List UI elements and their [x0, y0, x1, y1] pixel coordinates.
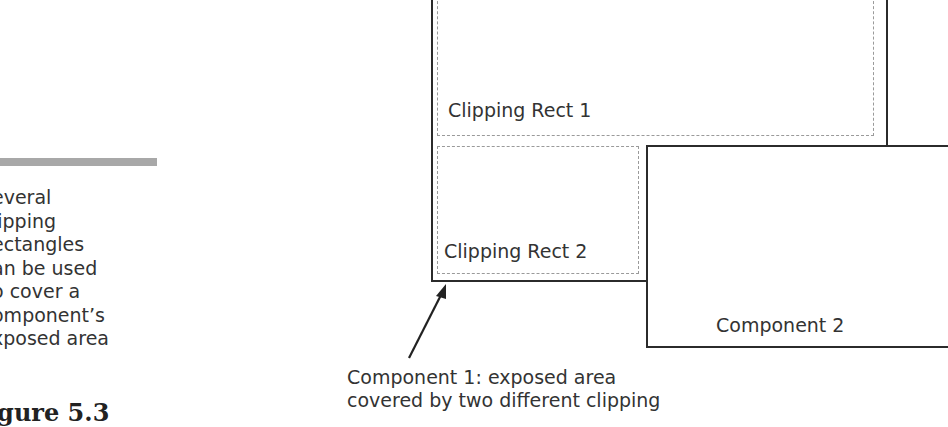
sidebar-line: lipping — [0, 210, 162, 234]
sidebar-line: ectangles — [0, 233, 162, 257]
caption-line: Component 1: exposed area — [347, 366, 660, 389]
caption-line: covered by two different clipping — [347, 389, 660, 412]
sidebar-caption: everal lipping ectangles an be used o co… — [0, 186, 162, 351]
clipping-rect-1-label: Clipping Rect 1 — [448, 99, 591, 121]
sidebar-line: an be used — [0, 257, 162, 281]
component-2-label: Component 2 — [716, 314, 844, 336]
diagram-caption: Component 1: exposed area covered by two… — [347, 366, 660, 412]
sidebar-line: omponent’s — [0, 304, 162, 328]
sidebar-line: o cover a — [0, 280, 162, 304]
sidebar-line: xposed area — [0, 327, 162, 351]
sidebar-rule — [0, 158, 157, 166]
clipping-rect-2-label: Clipping Rect 2 — [444, 240, 587, 262]
figure-label: igure 5.3 — [0, 398, 109, 427]
sidebar-line: everal — [0, 186, 162, 210]
